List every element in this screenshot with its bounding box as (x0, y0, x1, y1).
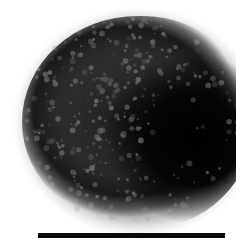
scale-bar (38, 233, 225, 238)
surface-granules (0, 0, 236, 245)
micrograph-frame (0, 0, 249, 245)
micrograph-crop (0, 0, 236, 245)
